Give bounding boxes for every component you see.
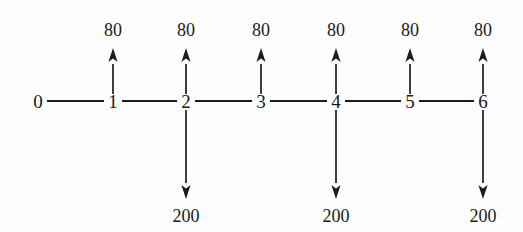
down-load-value-node-6: 200 xyxy=(470,206,497,226)
node-label-0: 0 xyxy=(33,91,43,112)
down-load-value-node-2: 200 xyxy=(173,206,200,226)
up-arrow-node-4-head xyxy=(331,48,340,62)
up-arrow-node-6-head xyxy=(478,48,487,62)
up-load-value-node-6: 80 xyxy=(474,20,492,40)
node-label-5: 5 xyxy=(405,91,415,112)
up-arrow-node-1-head xyxy=(108,48,117,62)
up-arrow-node-2-head xyxy=(181,48,190,62)
up-arrow-node-3-head xyxy=(256,48,265,62)
down-arrow-node-2-head xyxy=(181,185,190,199)
node-label-4: 4 xyxy=(331,91,341,112)
diagram-canvas: 0123456 808080808080200200200 xyxy=(0,0,523,232)
down-load-value-node-4: 200 xyxy=(323,206,350,226)
node-label-2: 2 xyxy=(181,91,191,112)
node-label-3: 3 xyxy=(256,91,266,112)
up-arrow-node-5-head xyxy=(405,48,414,62)
downward-load-arrows xyxy=(181,110,487,199)
up-load-value-node-1: 80 xyxy=(104,20,122,40)
up-load-value-node-2: 80 xyxy=(177,20,195,40)
node-label-6: 6 xyxy=(478,91,488,112)
up-load-value-node-5: 80 xyxy=(401,20,419,40)
down-arrow-node-6-head xyxy=(478,185,487,199)
up-load-value-node-4: 80 xyxy=(327,20,345,40)
upward-load-arrows xyxy=(108,48,487,94)
load-value-labels: 808080808080200200200 xyxy=(104,20,497,226)
beam-load-diagram: 0123456 808080808080200200200 xyxy=(0,0,523,232)
node-label-1: 1 xyxy=(108,91,118,112)
down-arrow-node-4-head xyxy=(331,185,340,199)
up-load-value-node-3: 80 xyxy=(252,20,270,40)
